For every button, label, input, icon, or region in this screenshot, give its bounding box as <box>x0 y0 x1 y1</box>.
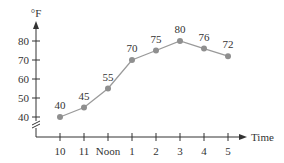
y-tick-label: 40 <box>18 111 30 123</box>
data-point <box>201 46 207 52</box>
axis-break-icon <box>32 121 40 128</box>
x-axis-arrow-icon <box>239 134 247 140</box>
y-axis-label: °F <box>31 7 42 19</box>
data-label: 80 <box>175 23 187 35</box>
data-label: 40 <box>55 99 67 111</box>
y-tick-label: 80 <box>18 35 30 47</box>
y-tick-label: 60 <box>18 73 30 85</box>
axes: °F4050607080Time1011Noon12345 <box>18 7 274 157</box>
data-label: 70 <box>127 42 139 54</box>
x-tick-label: 1 <box>129 145 135 157</box>
data-label: 45 <box>79 90 91 102</box>
data-point <box>225 53 231 59</box>
x-tick-label: 5 <box>225 145 231 157</box>
x-axis-label: Time <box>251 131 274 143</box>
y-tick-label: 50 <box>18 92 30 104</box>
labels: 4045557075807672 <box>55 23 234 111</box>
data-point <box>57 114 63 120</box>
data-label: 72 <box>223 38 234 50</box>
data-label: 55 <box>103 71 115 83</box>
temperature-series <box>57 38 231 120</box>
data-label: 76 <box>199 31 211 43</box>
line-chart: °F4050607080Time1011Noon12345 4045557075… <box>0 0 284 163</box>
x-tick-label: Noon <box>96 145 121 157</box>
x-tick-label: 11 <box>79 145 90 157</box>
data-point <box>177 38 183 44</box>
data-point <box>129 57 135 63</box>
y-axis-arrow-icon <box>33 21 39 29</box>
x-tick-label: 4 <box>201 145 207 157</box>
x-tick-label: 3 <box>177 145 183 157</box>
data-label: 75 <box>151 33 163 45</box>
data-point <box>81 105 87 111</box>
data-point <box>105 86 111 92</box>
x-tick-label: 2 <box>153 145 159 157</box>
x-tick-label: 10 <box>55 145 67 157</box>
y-tick-label: 70 <box>18 54 30 66</box>
data-point <box>153 48 159 54</box>
